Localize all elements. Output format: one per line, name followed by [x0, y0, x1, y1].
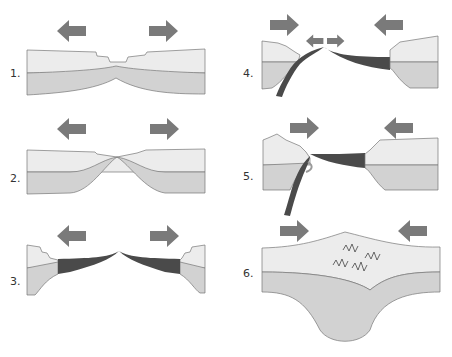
arrow-right-icon [149, 20, 178, 42]
panel-4 [262, 14, 438, 97]
arrow-left-icon [57, 225, 86, 247]
wilson-cycle-diagram [0, 0, 452, 357]
arrow-left-icon [384, 117, 413, 139]
panel-2 [27, 118, 205, 194]
arrow-left-icon [57, 118, 86, 140]
small-arrow-right-icon [327, 34, 344, 47]
panel-3 [27, 225, 205, 295]
arrow-right-icon [150, 118, 179, 140]
panel-label-2: 2. [10, 172, 21, 185]
arrow-left-icon [57, 20, 86, 42]
panel-1 [27, 20, 205, 95]
panel-label-3: 3. [10, 275, 21, 288]
panel-label-4: 4. [243, 67, 254, 80]
panel-label-5: 5. [243, 170, 254, 183]
arrow-right-icon [280, 220, 309, 242]
panel-label-1: 1. [10, 67, 21, 80]
arrow-right-icon [150, 225, 179, 247]
arrow-right-icon [290, 117, 319, 139]
panel-6 [262, 220, 440, 341]
panel-5 [263, 117, 438, 216]
arrow-left-icon [398, 220, 427, 242]
arrow-right-icon [270, 14, 299, 36]
panel-label-6: 6. [243, 267, 254, 280]
arrow-left-icon [374, 14, 403, 36]
small-arrow-left-icon [306, 34, 323, 47]
